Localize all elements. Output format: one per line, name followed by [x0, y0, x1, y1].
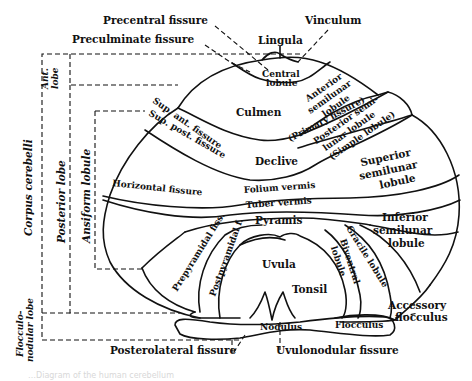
label-accessory-flocculus-1: Accessory — [387, 299, 447, 311]
label-corpus-cerebelli: Corpus cerebelli — [22, 139, 34, 236]
label-inferior-semilunar-lobule: Inferior semilunar lobule — [373, 211, 433, 249]
label-preculminate-fissure: Preculminate fissure — [72, 33, 194, 45]
label-horizontal-fissure: Horizontal fissure — [112, 178, 203, 197]
svg-text:semilunar: semilunar — [373, 224, 433, 236]
dashed-brackets — [42, 26, 418, 355]
svg-text:lobe: lobe — [50, 67, 60, 89]
label-posterior-lobe: Posterior lobe — [55, 160, 67, 244]
svg-text:Flocculo-: Flocculo- — [15, 310, 25, 358]
label-flocculus: Flocculus — [335, 320, 383, 330]
label-posterolateral-fissure: Posterolateral fissure — [110, 344, 237, 356]
svg-text:nodular lobe: nodular lobe — [25, 298, 35, 362]
label-tonsil: Tonsil — [292, 283, 327, 295]
label-vinculum: Vinculum — [304, 14, 361, 26]
svg-text:lobule: lobule — [388, 237, 425, 249]
label-lingula: Lingula — [258, 34, 303, 46]
svg-text:Inferior: Inferior — [382, 211, 428, 223]
svg-text:Ant.: Ant. — [40, 68, 50, 90]
label-declive: Declive — [255, 155, 298, 167]
label-central-lobule-2: lobule — [266, 78, 298, 88]
label-ansiform-lobule: Ansiform lobule — [80, 149, 92, 244]
label-uvulonodular-fissure: Uvulonodular fissure — [276, 344, 399, 356]
label-accessory-flocculus-2: flocculus — [395, 311, 448, 323]
label-pyramis: Pyramis — [255, 214, 302, 226]
label-flocculonodular-lobe: Flocculo- nodular lobe — [15, 298, 35, 362]
label-superior-semilunar-lobule: Superior semilunar lobule — [355, 145, 421, 195]
label-folium-vermis: Folium vermis — [243, 180, 315, 195]
label-ant-lobe: Ant. lobe — [40, 67, 60, 90]
cerebellum-diagram: Precentral fissure Vinculum Preculminate… — [0, 0, 472, 381]
label-culmen: Culmen — [236, 106, 282, 118]
figure-caption: …Diagram of the human cerebellum — [28, 371, 174, 380]
label-tuber-vermis: Tuber vermis — [245, 195, 312, 210]
label-nodulus: Nodulus — [260, 322, 302, 332]
label-uvula: Uvula — [262, 258, 296, 270]
label-precentral-fissure: Precentral fissure — [103, 14, 208, 26]
